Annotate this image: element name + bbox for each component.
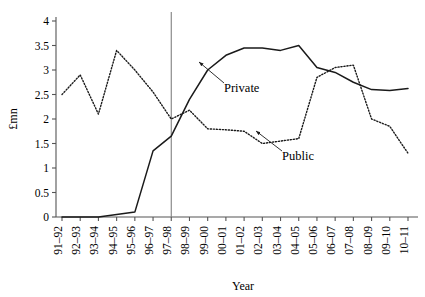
- x-tick-label: 09–10: [380, 226, 392, 255]
- annotation-label: Private: [224, 81, 260, 95]
- x-tick-label: 08–09: [362, 226, 374, 255]
- x-tick-label: 05–06: [307, 226, 319, 255]
- x-tick-label: 01–02: [234, 226, 246, 255]
- x-tick-label: 92–93: [70, 226, 82, 255]
- x-tick-label: 99–00: [198, 226, 210, 255]
- x-tick-label: 02–03: [252, 226, 264, 255]
- axes: [56, 17, 418, 217]
- x-tick-label: 98–99: [179, 226, 191, 255]
- series-line-public: [62, 50, 408, 153]
- chart-plot-area: 00.511.522.533.5491–9292–9393–9494–9595–…: [0, 0, 425, 297]
- x-tick-label: 95–96: [125, 226, 137, 255]
- x-tick-label: 10–11: [398, 226, 410, 255]
- y-tick-label: 2.5: [35, 89, 50, 101]
- x-tick-label: 93–94: [88, 226, 100, 255]
- y-tick-label: 3.5: [35, 40, 50, 52]
- x-axis-ticks: 91–9292–9393–9494–9595–9696–9797–9898–99…: [52, 217, 410, 255]
- x-tick-label: 91–92: [52, 226, 64, 255]
- x-tick-label: 94–95: [107, 226, 119, 255]
- y-tick-label: 0: [43, 211, 49, 223]
- x-tick-label: 06–07: [325, 226, 337, 255]
- line-chart: 00.511.522.533.5491–9292–9393–9494–9595–…: [0, 0, 425, 297]
- y-tick-label: 1.5: [35, 138, 50, 150]
- x-tick-label: 97–98: [161, 226, 173, 255]
- y-axis-title: £mn: [6, 108, 20, 129]
- y-tick-label: 3: [43, 64, 49, 76]
- x-axis-title: Year: [232, 279, 254, 293]
- x-tick-label: 07–08: [343, 226, 355, 255]
- y-axis-ticks: 00.511.522.533.54: [35, 15, 56, 223]
- x-tick-label: 04–05: [289, 226, 301, 255]
- y-tick-label: 0.5: [35, 187, 50, 199]
- y-tick-label: 1: [43, 162, 49, 174]
- annotation-label: Public: [282, 149, 314, 163]
- x-tick-label: 03–04: [271, 226, 283, 255]
- y-tick-label: 2: [43, 113, 49, 125]
- annotation-private: Private: [199, 62, 260, 95]
- y-tick-label: 4: [43, 15, 49, 27]
- annotation-public: Public: [256, 131, 314, 163]
- x-tick-label: 96–97: [143, 226, 155, 255]
- annotation-arrow: [199, 62, 224, 83]
- x-tick-label: 00–01: [216, 226, 228, 255]
